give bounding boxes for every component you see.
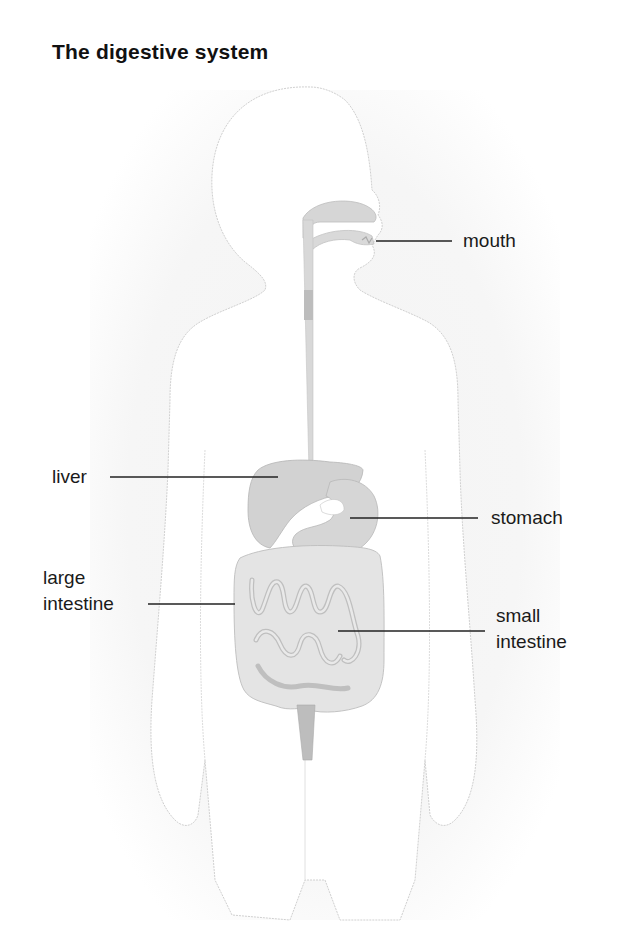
label-liver: liver bbox=[52, 465, 87, 489]
label-small-intestine-line2: intestine bbox=[496, 630, 567, 654]
label-large-intestine-line2: intestine bbox=[43, 592, 114, 616]
label-stomach: stomach bbox=[491, 506, 563, 530]
label-large-intestine-line1: large bbox=[43, 566, 85, 590]
diagram-title: The digestive system bbox=[52, 40, 268, 64]
label-small-intestine-line1: small bbox=[496, 604, 540, 628]
digestive-system-diagram: The digestive system mouth liver stomach… bbox=[0, 0, 621, 950]
label-mouth: mouth bbox=[463, 229, 516, 253]
body-illustration bbox=[0, 0, 621, 950]
oesophagus-shade bbox=[304, 290, 313, 320]
